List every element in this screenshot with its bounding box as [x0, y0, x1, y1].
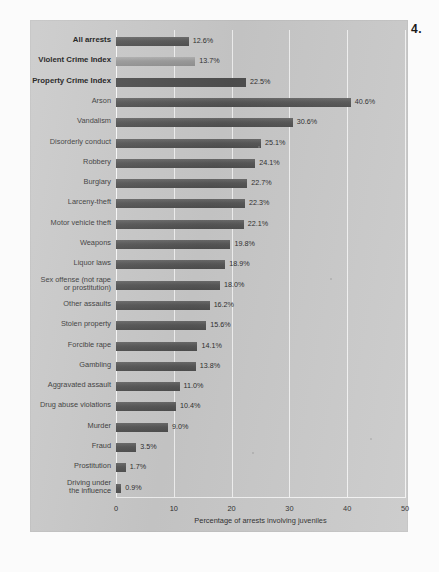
bar-value-label: 24.1% [259, 158, 279, 167]
bar-value-label: 16.2% [214, 300, 234, 309]
bar-value-label: 14.1% [201, 341, 221, 350]
bar-row: Driving under the influence0.9% [116, 483, 405, 505]
bar-row: Disorderly conduct25.1% [116, 138, 405, 160]
category-label: Forcible rape [0, 341, 111, 350]
x-tick-label-30: 30 [285, 504, 293, 513]
bar-row: Fraud3.5% [116, 442, 405, 464]
bar [116, 443, 136, 452]
category-label: Gambling [0, 361, 111, 370]
bar-value-label: 22.5% [250, 77, 270, 86]
bar-row: Drug abuse violations10.4% [116, 401, 405, 423]
bar-row: Violent Crime Index13.7% [116, 56, 405, 78]
bar [116, 463, 126, 472]
bar-value-label: 1.7% [130, 462, 146, 471]
bar-row: Murder9.0% [116, 422, 405, 444]
bar-value-label: 9.0% [172, 422, 188, 431]
bar-value-label: 13.8% [200, 361, 220, 370]
bar-value-label: 10.4% [180, 401, 200, 410]
category-label: Weapons [0, 239, 111, 248]
bar [116, 301, 210, 310]
bar-row: Aggravated assault11.0% [116, 381, 405, 403]
bar-row: Prostitution1.7% [116, 462, 405, 484]
bar-value-label: 22.7% [251, 178, 271, 187]
category-label: Liquor laws [0, 259, 111, 268]
category-label: Burglary [0, 178, 111, 187]
bar-value-label: 25.1% [265, 138, 285, 147]
bar [116, 179, 247, 188]
x-tick-label-40: 40 [343, 504, 351, 513]
bar [116, 423, 168, 432]
category-label: Robbery [0, 158, 111, 167]
bar-row: Burglary22.7% [116, 178, 405, 200]
plot-baseline [116, 497, 405, 498]
category-label: Prostitution [0, 462, 111, 471]
scan-speckle [258, 146, 260, 148]
bar [116, 118, 293, 127]
bar-row: Property Crime Index22.5% [116, 77, 405, 99]
bar-row: Motor vehicle theft22.1% [116, 219, 405, 241]
category-label: Murder [0, 422, 111, 431]
x-tick-label-10: 10 [170, 504, 178, 513]
bar [116, 159, 255, 168]
bar-row: Larceny-theft22.3% [116, 198, 405, 220]
page-background: 4. All arrests12.6%Violent Crime Index13… [0, 0, 439, 572]
bar [116, 240, 230, 249]
category-label: All arrests [0, 36, 111, 45]
bar-row: Weapons19.8% [116, 239, 405, 261]
bar [116, 37, 189, 46]
x-tick-label-0: 0 [114, 504, 118, 513]
bar-row: Other assaults16.2% [116, 300, 405, 322]
chart-panel: All arrests12.6%Violent Crime Index13.7%… [30, 20, 408, 532]
category-label: Sex offense (not rape or prostitution) [0, 276, 111, 293]
bar-value-label: 12.6% [193, 36, 213, 45]
bar-value-label: 40.6% [355, 97, 375, 106]
bar-value-label: 3.5% [140, 442, 156, 451]
bar [116, 382, 180, 391]
bar-row: Liquor laws18.9% [116, 259, 405, 281]
bar-row: Stolen property15.6% [116, 320, 405, 342]
bar-value-label: 18.0% [224, 280, 244, 289]
bar [116, 362, 196, 371]
bar-row: Arson40.6% [116, 97, 405, 119]
bar [116, 98, 351, 107]
plot-area: All arrests12.6%Violent Crime Index13.7%… [116, 30, 405, 498]
category-label: Arson [0, 97, 111, 106]
category-label: Aggravated assault [0, 381, 111, 390]
bar [116, 78, 246, 87]
bar [116, 139, 261, 148]
bar-value-label: 11.0% [184, 381, 204, 390]
category-label: Larceny-theft [0, 198, 111, 207]
bar-value-label: 15.6% [210, 320, 230, 329]
category-label: Other assaults [0, 300, 111, 309]
x-tick-label-50: 50 [401, 504, 409, 513]
category-label: Driving under the influence [0, 479, 111, 496]
bar-row: Vandalism30.6% [116, 117, 405, 139]
bar-row: Robbery24.1% [116, 158, 405, 180]
figure-number-label: 4. [411, 22, 422, 36]
scan-speckle [370, 438, 372, 440]
category-label: Motor vehicle theft [0, 219, 111, 228]
bar-value-label: 13.7% [199, 56, 219, 65]
bar [116, 220, 244, 229]
bar [116, 484, 121, 493]
x-axis-tick-labels: 01020304050 [116, 504, 405, 516]
x-tick-label-20: 20 [227, 504, 235, 513]
category-label: Fraud [0, 442, 111, 451]
x-axis-title: Percentage of arrests involving juvenile… [116, 516, 405, 525]
bar-value-label: 22.1% [248, 219, 268, 228]
category-label: Violent Crime Index [0, 56, 111, 65]
bar-row: Forcible rape14.1% [116, 341, 405, 363]
category-label: Vandalism [0, 117, 111, 126]
bar [116, 199, 245, 208]
gridline-50 [405, 30, 406, 498]
bar-row: Gambling13.8% [116, 361, 405, 383]
bar-row: All arrests12.6% [116, 36, 405, 58]
bar [116, 57, 195, 66]
bar-value-label: 22.3% [249, 198, 269, 207]
bar [116, 342, 197, 351]
bar [116, 281, 220, 290]
category-label: Drug abuse violations [0, 401, 111, 410]
bar [116, 260, 225, 269]
bar-value-label: 19.8% [234, 239, 254, 248]
bar-value-label: 0.9% [125, 483, 141, 492]
